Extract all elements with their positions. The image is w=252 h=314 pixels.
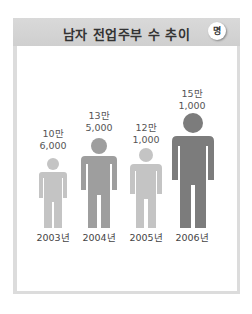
- year-label-2003: 2003년: [28, 230, 78, 244]
- value-label-2006: 15만 1,000: [167, 88, 217, 112]
- value-label-line2: 5,000: [74, 122, 124, 134]
- value-label-2003: 10만 6,000: [28, 128, 78, 152]
- value-label-line1: 15만: [167, 88, 217, 100]
- person-icon-2006: [172, 113, 214, 228]
- value-label-line2: 6,000: [28, 140, 78, 152]
- unit-badge: 명: [208, 22, 226, 40]
- person-icon-2004: [81, 138, 117, 228]
- year-label-2005: 2005년: [121, 230, 171, 244]
- person-icon-2005: [130, 148, 162, 228]
- chart-header: 남자 전업주부 수 추이 명: [13, 18, 240, 46]
- year-label-2004: 2004년: [74, 230, 124, 244]
- value-label-line1: 10만: [28, 128, 78, 140]
- value-label-2005: 12만 1,000: [121, 122, 171, 146]
- year-label-2006: 2006년: [167, 230, 217, 244]
- value-label-line2: 1,000: [167, 100, 217, 112]
- value-label-line2: 1,000: [121, 134, 171, 146]
- person-icon-2003: [38, 158, 68, 228]
- value-label-2004: 13만 5,000: [74, 110, 124, 134]
- value-label-line1: 12만: [121, 122, 171, 134]
- chart-title: 남자 전업주부 수 추이: [13, 24, 240, 43]
- value-label-line1: 13만: [74, 110, 124, 122]
